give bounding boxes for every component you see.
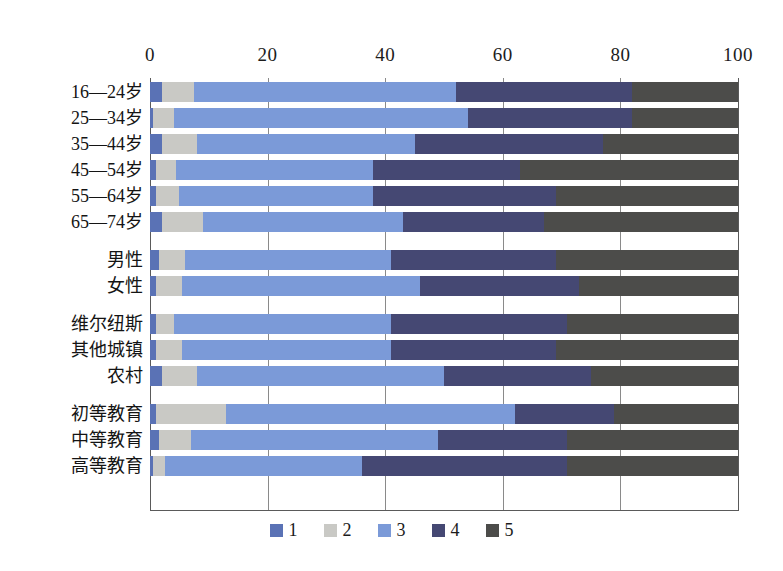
category-label: 16—24岁: [10, 83, 150, 101]
category-label: 农村: [10, 367, 150, 385]
legend-label: 5: [505, 521, 514, 539]
x-tick-label-60: 60: [493, 44, 513, 66]
category-label: 65—74岁: [10, 213, 150, 231]
category-label: 45—54岁: [10, 161, 150, 179]
bar-segment-series-4: [456, 82, 632, 102]
bar-segment-series-4: [420, 276, 579, 296]
bar-segment-series-5: [520, 160, 738, 180]
bar-segment-series-3: [203, 212, 403, 232]
bar-segment-series-1: [150, 134, 162, 154]
bar-segment-series-4: [515, 404, 615, 424]
bar-segment-series-1: [150, 250, 159, 270]
bar-segment-series-2: [156, 186, 180, 206]
bar-row: [150, 404, 738, 424]
category-label: 女性: [10, 277, 150, 295]
bar-segment-series-2: [159, 430, 191, 450]
bar-segment-series-3: [197, 366, 444, 386]
bar-segment-series-3: [226, 404, 514, 424]
legend-item-5[interactable]: 5: [486, 521, 514, 539]
bar-segment-series-5: [632, 82, 738, 102]
bar-segment-series-2: [159, 250, 185, 270]
bar-segment-series-2: [153, 108, 174, 128]
chart-legend: 12345: [0, 521, 783, 539]
bar-segment-series-3: [182, 340, 391, 360]
bar-segment-series-5: [567, 314, 738, 334]
bar-segment-series-2: [156, 340, 182, 360]
gridline-100: [738, 78, 739, 510]
bar-row: [150, 430, 738, 450]
bar-segment-series-4: [468, 108, 633, 128]
bar-segment-series-2: [162, 212, 203, 232]
legend-item-4[interactable]: 4: [432, 521, 460, 539]
bar-segment-series-4: [391, 340, 556, 360]
x-tick-label-80: 80: [610, 44, 630, 66]
bar-row: [150, 134, 738, 154]
y-axis-category-labels: 16—24岁25—34岁35—44岁45—54岁55—64岁65—74岁男性女性…: [0, 78, 150, 510]
bar-row: [150, 82, 738, 102]
bar-segment-series-3: [165, 456, 362, 476]
bar-row: [150, 160, 738, 180]
bar-segment-series-5: [556, 250, 738, 270]
bar-segment-series-2: [162, 82, 194, 102]
x-tick-label-100: 100: [723, 44, 753, 66]
legend-swatch-icon: [324, 524, 337, 537]
bar-segment-series-2: [153, 456, 165, 476]
bar-segment-series-2: [156, 276, 182, 296]
legend-item-2[interactable]: 2: [324, 521, 352, 539]
bar-segment-series-3: [182, 276, 420, 296]
legend-swatch-icon: [486, 524, 499, 537]
legend-label: 2: [343, 521, 352, 539]
x-axis-tick-labels: 020406080100: [150, 44, 738, 72]
x-tick-label-0: 0: [145, 44, 155, 66]
bar-segment-series-5: [591, 366, 738, 386]
bar-segment-series-2: [162, 366, 197, 386]
legend-item-1[interactable]: 1: [270, 521, 298, 539]
bar-segment-series-2: [156, 314, 174, 334]
bar-segment-series-4: [403, 212, 544, 232]
bar-segment-series-1: [150, 430, 159, 450]
bar-row: [150, 314, 738, 334]
category-label: 中等教育: [10, 431, 150, 449]
bar-segment-series-3: [191, 430, 438, 450]
legend-item-3[interactable]: 3: [378, 521, 406, 539]
bar-segment-series-5: [603, 134, 738, 154]
bar-row: [150, 108, 738, 128]
legend-swatch-icon: [378, 524, 391, 537]
bar-segment-series-5: [567, 456, 738, 476]
bar-row: [150, 456, 738, 476]
bar-segment-series-5: [567, 430, 738, 450]
bar-segment-series-3: [197, 134, 415, 154]
category-label: 初等教育: [10, 405, 150, 423]
legend-swatch-icon: [432, 524, 445, 537]
bar-row: [150, 366, 738, 386]
bar-segment-series-4: [373, 160, 520, 180]
stacked-bar-chart: 020406080100 16—24岁25—34岁35—44岁45—54岁55—…: [0, 0, 783, 571]
category-label: 男性: [10, 251, 150, 269]
bar-segment-series-4: [362, 456, 568, 476]
bar-segment-series-4: [391, 314, 567, 334]
bar-segment-series-2: [156, 404, 227, 424]
bar-segment-series-5: [579, 276, 738, 296]
bar-row: [150, 276, 738, 296]
x-tick-label-20: 20: [258, 44, 278, 66]
bar-segment-series-4: [438, 430, 567, 450]
axis-baseline: [150, 510, 739, 511]
x-tick-label-40: 40: [375, 44, 395, 66]
bar-segment-series-3: [174, 314, 392, 334]
category-label: 高等教育: [10, 457, 150, 475]
bar-row: [150, 186, 738, 206]
legend-label: 1: [289, 521, 298, 539]
bar-row: [150, 212, 738, 232]
bar-row: [150, 340, 738, 360]
bar-segment-series-3: [194, 82, 456, 102]
bar-segment-series-5: [556, 340, 738, 360]
bar-segment-series-3: [179, 186, 373, 206]
bar-segment-series-4: [415, 134, 603, 154]
bar-segment-series-3: [174, 108, 468, 128]
category-label: 35—44岁: [10, 135, 150, 153]
bar-segment-series-3: [176, 160, 373, 180]
plot-area: [150, 78, 738, 510]
bar-segment-series-1: [150, 212, 162, 232]
bar-segment-series-1: [150, 366, 162, 386]
legend-swatch-icon: [270, 524, 283, 537]
